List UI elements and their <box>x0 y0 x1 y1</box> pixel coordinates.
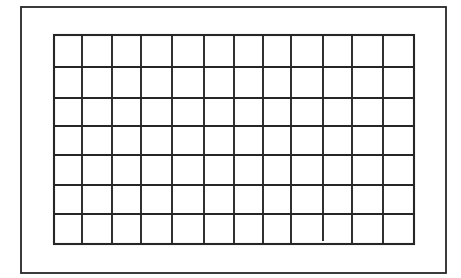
grid <box>54 35 414 244</box>
grid-diagram <box>0 0 461 278</box>
